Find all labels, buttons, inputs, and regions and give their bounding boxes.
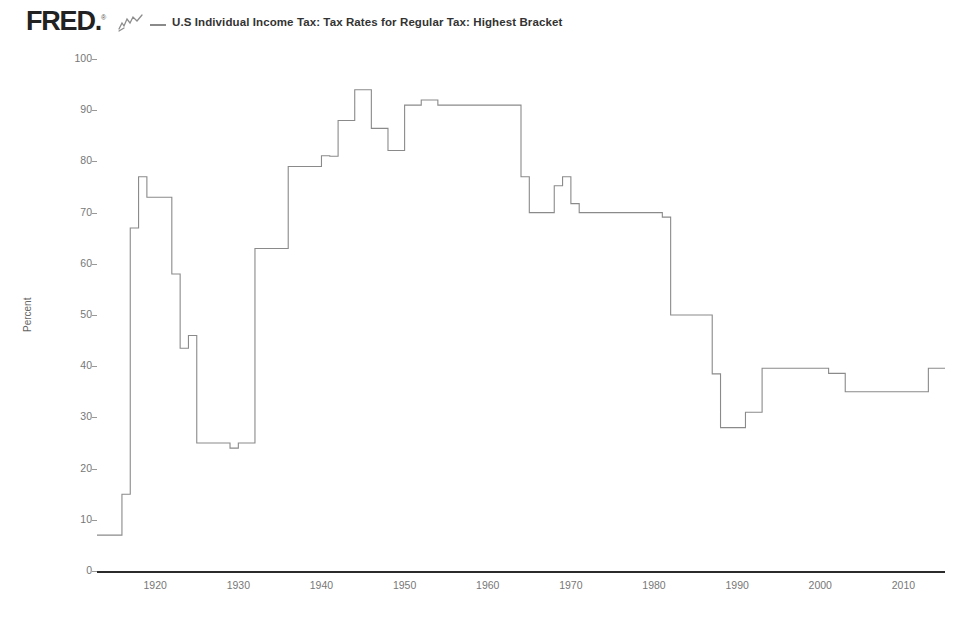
chart-header: FRED.® U.S Individual Income Tax: Tax Ra…: [0, 0, 963, 46]
y-tick-mark: [92, 110, 97, 111]
y-tick-label: 60: [48, 257, 92, 269]
x-tick-label: 1990: [707, 579, 767, 591]
x-tick-label: 1930: [208, 579, 268, 591]
legend-series-label: U.S Individual Income Tax: Tax Rates for…: [172, 16, 562, 28]
y-tick-label: 20: [48, 462, 92, 474]
fred-logo-registered: ®: [101, 14, 105, 21]
line-chart-squiggle-icon: [118, 14, 144, 32]
series-line-highest-bracket: [0, 46, 963, 627]
y-tick-mark: [92, 366, 97, 367]
y-tick-label: 0: [48, 564, 92, 576]
y-tick-mark: [92, 520, 97, 521]
series-path-highest-bracket: [97, 90, 945, 535]
chart-area: Percent 0102030405060708090100 192019301…: [0, 46, 963, 627]
y-tick-mark: [92, 417, 97, 418]
x-tick-label: 2010: [873, 579, 933, 591]
y-tick-label: 90: [48, 103, 92, 115]
y-tick-mark: [92, 161, 97, 162]
y-tick-mark: [92, 264, 97, 265]
y-tick-label: 50: [48, 308, 92, 320]
y-tick-mark: [92, 469, 97, 470]
y-tick-label: 100: [48, 52, 92, 64]
fred-logo-dot: .: [95, 6, 101, 36]
fred-logo: FRED.®: [26, 8, 105, 35]
x-tick-label: 1940: [291, 579, 351, 591]
y-tick-label: 40: [48, 359, 92, 371]
legend-line-swatch: [150, 24, 166, 26]
x-axis-line: [97, 571, 945, 573]
y-tick-label: 80: [48, 154, 92, 166]
x-tick-label: 1970: [541, 579, 601, 591]
y-tick-mark: [92, 213, 97, 214]
x-tick-label: 1950: [375, 579, 435, 591]
x-tick-label: 1980: [624, 579, 684, 591]
x-tick-label: 1960: [458, 579, 518, 591]
y-tick-mark: [92, 59, 97, 60]
x-tick-label: 1920: [125, 579, 185, 591]
y-axis-title: Percent: [22, 298, 33, 332]
y-tick-label: 30: [48, 410, 92, 422]
y-tick-label: 70: [48, 206, 92, 218]
y-tick-label: 10: [48, 513, 92, 525]
fred-logo-text: FRED: [26, 6, 95, 36]
y-tick-mark: [92, 315, 97, 316]
x-tick-label: 2000: [790, 579, 850, 591]
